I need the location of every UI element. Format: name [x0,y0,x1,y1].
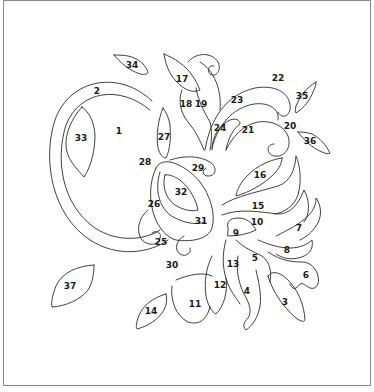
region-label-9: 9 [233,228,239,238]
line-art-drawing: 1234567891011121314151617181920212223242… [0,0,374,392]
curl-21-shape [226,122,289,157]
region-label-23: 23 [231,95,244,105]
region-label-2: 2 [94,86,100,96]
region-label-17: 17 [176,74,189,84]
region-label-10: 10 [251,217,264,227]
region-label-32: 32 [175,187,188,197]
region-label-15: 15 [252,201,265,211]
region-label-6: 6 [303,270,309,280]
region-label-7: 7 [296,223,302,233]
region-label-11: 11 [189,299,202,309]
region-label-30: 30 [166,260,179,270]
region-label-29: 29 [192,163,205,173]
region-label-25: 25 [155,237,168,247]
region-label-19: 19 [195,99,208,109]
coloring-page: 1234567891011121314151617181920212223242… [0,0,374,392]
region-label-12: 12 [214,280,227,290]
region-label-34: 34 [126,60,139,70]
region-label-18: 18 [180,99,193,109]
petal-6-shape [268,252,319,289]
region-label-14: 14 [145,306,158,316]
circle-ring-shape [50,82,168,252]
region-label-5: 5 [252,253,258,263]
region-label-35: 35 [296,91,309,101]
region-label-22: 22 [272,73,285,83]
region-label-31: 31 [195,216,208,226]
region-label-8: 8 [284,245,290,255]
petal-7-shape [276,198,321,240]
region-label-4: 4 [244,286,250,296]
region-label-28: 28 [139,157,152,167]
big-curl-outer-shape [205,87,290,150]
region-label-33: 33 [75,133,88,143]
region-label-21: 21 [242,125,255,135]
region-label-3: 3 [282,297,288,307]
region-label-13: 13 [227,259,240,269]
region-label-20: 20 [284,121,297,131]
region-label-1: 1 [116,126,122,136]
region-label-27: 27 [158,132,171,142]
curl-30-shape [177,236,191,255]
region-label-26: 26 [148,199,161,209]
region-label-16: 16 [254,170,267,180]
region-label-36: 36 [304,136,317,146]
petal-10-shape [222,190,309,222]
region-label-37: 37 [64,281,77,291]
region-labels: 1234567891011121314151617181920212223242… [64,60,317,316]
region-label-24: 24 [214,123,227,133]
